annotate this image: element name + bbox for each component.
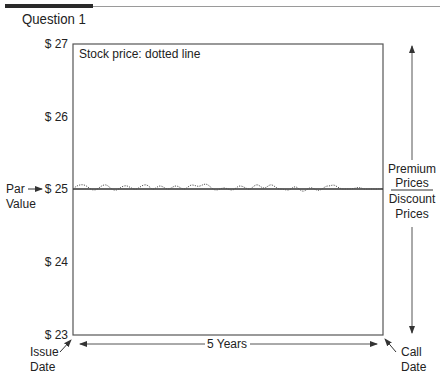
- y-tick-27: $ 27: [45, 37, 69, 51]
- stock-price-line: [73, 184, 383, 191]
- premium-label: Premium: [388, 162, 436, 176]
- par-label: Par: [6, 182, 25, 196]
- premium-prices-label: Prices: [395, 176, 428, 190]
- discount-prices-label: Prices: [395, 207, 428, 221]
- duration-label: 5 Years: [207, 337, 247, 351]
- y-tick-25: $ 25: [45, 182, 69, 196]
- y-tick-23: $ 23: [45, 328, 69, 342]
- call-date-arrow-icon: [385, 339, 396, 352]
- plot-annotation: Stock price: dotted line: [79, 47, 201, 61]
- y-tick-24: $ 24: [45, 255, 69, 269]
- value-label: Value: [6, 197, 36, 211]
- y-tick-26: $ 26: [45, 110, 69, 124]
- discount-label: Discount: [389, 192, 436, 206]
- bond-price-diagram: Stock price: dotted line $ 27 $ 26 $ 25 …: [0, 0, 440, 378]
- issue-label: Issue: [30, 345, 59, 359]
- call-label: Call: [401, 345, 422, 359]
- issue-date-label: Date: [30, 360, 56, 374]
- call-date-label: Date: [401, 360, 427, 374]
